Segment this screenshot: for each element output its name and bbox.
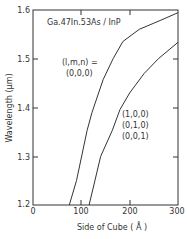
x-tick-0: 0 (30, 207, 35, 216)
annotation-010: (0,1,0) (122, 121, 149, 130)
x-axis-label: Side of Cube ( Å ) (77, 221, 147, 232)
x-ticks (81, 10, 130, 205)
annotation-001: (0,0,1) (122, 132, 149, 141)
curve-000 (69, 13, 178, 205)
plot-frame (33, 10, 178, 205)
material-label: Ga.47In.53As / InP (47, 18, 121, 27)
y-tick-1.3: 1.3 (17, 153, 30, 162)
chart: 0 100 200 300 1.2 1.3 1.4 1.5 1.6 Side o… (0, 0, 187, 239)
y-tick-1.2: 1.2 (17, 200, 30, 209)
y-axis-label: Wavelength (μm) (5, 73, 14, 142)
annotation-lmn-label: (l,m,n) = (62, 58, 98, 67)
x-tick-200: 200 (122, 207, 137, 216)
annotation-000: (0,0,0) (66, 69, 93, 78)
y-tick-1.5: 1.5 (17, 55, 30, 64)
y-tick-1.4: 1.4 (17, 104, 30, 113)
y-tick-1.6: 1.6 (17, 6, 30, 15)
x-tick-100: 100 (73, 207, 88, 216)
annotation-100: (1,0,0) (122, 110, 149, 119)
x-tick-300: 300 (169, 207, 184, 216)
